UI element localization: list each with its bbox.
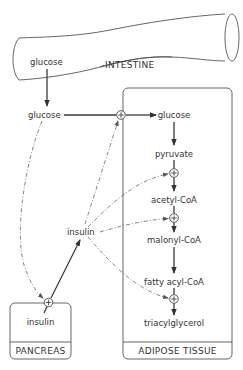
pathway-triacylglycerol-label: triacylglycerol xyxy=(144,318,204,328)
insulin-release-plus-icon xyxy=(44,298,53,307)
intestine-tube-outline xyxy=(13,14,225,80)
pathway-fatty-acyl-coa-label: fatty acyl-CoA xyxy=(144,277,204,287)
intestine-label: INTESTINE xyxy=(105,60,155,70)
adipose-tissue-label: ADIPOSE TISSUE xyxy=(138,346,217,356)
pathway-malonyl-coa-label: malonyl-CoA xyxy=(147,235,201,245)
dashed-insulin-to-fatty-acyl-coa-step xyxy=(88,237,168,298)
dashed-glucose-stimulates-insulin-release xyxy=(20,121,43,298)
pancreas-label: PANCREAS xyxy=(15,346,65,356)
pathway-pyruvate-label: pyruvate xyxy=(155,149,193,159)
blood-insulin-label: insulin xyxy=(67,227,95,237)
dashed-insulin-to-glucose-uptake xyxy=(85,121,118,224)
adipose-pathway: glucose pyruvate acetyl-CoA malonyl-CoA … xyxy=(144,110,204,328)
intestine-glucose-label: glucose xyxy=(30,57,63,67)
insulin-lipogenesis-diagram: glucose INTESTINE glucose ADIPOSE TISSUE… xyxy=(0,0,243,370)
pathway-glucose-label: glucose xyxy=(158,110,191,120)
dashed-insulin-to-acetyl-coa-step xyxy=(100,219,168,233)
intestine-end-opening xyxy=(225,14,239,61)
fatty-acyl-coa-step-plus-icon xyxy=(170,295,179,304)
pancreas-box: PANCREAS insulin xyxy=(10,303,71,359)
acetyl-coa-step-plus-icon xyxy=(170,214,179,223)
pancreas-insulin-label: insulin xyxy=(27,317,55,327)
arrow-pancreas-to-blood-insulin xyxy=(51,240,80,298)
pyruvate-step-plus-icon xyxy=(170,169,179,178)
glucose-uptake-plus-icon xyxy=(117,111,126,120)
pathway-acetyl-coa-label: acetyl-CoA xyxy=(151,195,197,205)
blood-glucose-label: glucose xyxy=(28,110,61,120)
